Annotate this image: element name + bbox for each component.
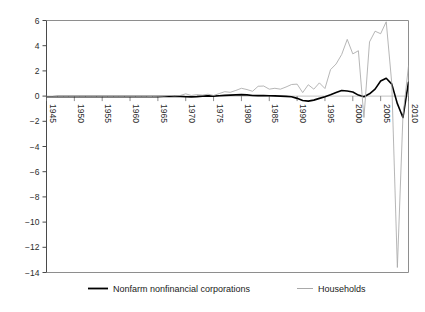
x-tick-label: 1985 <box>270 104 280 123</box>
x-tick-label: 1945 <box>48 104 58 123</box>
y-tick-label: 4 <box>35 41 40 51</box>
y-tick-label: 2 <box>35 66 40 76</box>
legend-label-nonfarm-nonfinancial-corporations: Nonfarm nonfinancial corporations <box>113 284 251 294</box>
x-tick-label: 2010 <box>410 104 420 123</box>
x-tick-label: 1960 <box>131 104 141 123</box>
y-tick-label: 0 <box>35 91 40 101</box>
y-tick-label: −12 <box>25 242 40 252</box>
y-tick-label: −6 <box>30 167 40 177</box>
chart-figure: 6420−2−4−6−8−10−12−14 194519501955196019… <box>0 0 425 312</box>
x-tick-label: 1955 <box>103 104 113 123</box>
x-tick-label: 2000 <box>354 104 364 123</box>
line-chart: 6420−2−4−6−8−10−12−14 194519501955196019… <box>0 0 425 312</box>
x-tick-label: 1995 <box>326 104 336 123</box>
x-tick-label: 1970 <box>187 104 197 123</box>
x-tick-label: 1950 <box>76 104 86 123</box>
legend-label-households: Households <box>318 284 366 294</box>
chart-legend: Nonfarm nonfinancial corporationsHouseho… <box>88 284 366 294</box>
y-tick-label: −4 <box>30 142 40 152</box>
y-tick-label: 6 <box>35 16 40 26</box>
y-tick-label: −8 <box>30 192 40 202</box>
x-tick-label: 1980 <box>243 104 253 123</box>
y-tick-label: −14 <box>25 268 40 278</box>
x-tick-label: 1975 <box>215 104 225 123</box>
x-tick-label: 1990 <box>298 104 308 123</box>
chart-background <box>0 0 425 312</box>
x-tick-label: 2005 <box>382 104 392 123</box>
x-tick-label: 1965 <box>159 104 169 123</box>
y-tick-label: −2 <box>30 116 40 126</box>
y-tick-label: −10 <box>25 217 40 227</box>
